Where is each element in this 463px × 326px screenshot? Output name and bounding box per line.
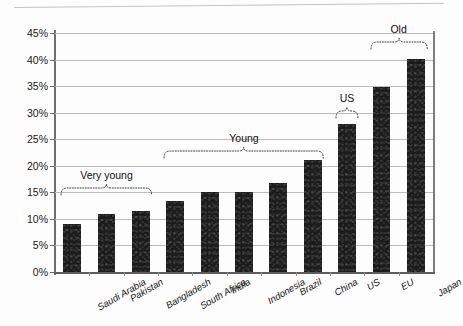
bar <box>98 214 116 272</box>
x-axis-category-label: China <box>332 276 359 298</box>
x-axis-tick <box>227 272 228 276</box>
plot-area: 0%5%10%15%20%25%30%35%40%45%Very youngYo… <box>55 33 433 272</box>
bar <box>166 201 184 272</box>
plot-right-border <box>433 31 435 273</box>
y-axis-label: 40% <box>27 54 48 65</box>
y-axis-label: 5% <box>33 240 48 251</box>
y-axis-tick <box>50 113 55 114</box>
y-axis-label: 15% <box>27 187 48 198</box>
x-axis-tick <box>192 272 193 276</box>
y-axis-label: 25% <box>27 134 48 145</box>
y-axis-label: 0% <box>33 267 48 278</box>
y-axis-label: 10% <box>27 214 48 225</box>
bar <box>63 224 81 272</box>
bar <box>132 211 150 272</box>
annotation-brace <box>60 184 153 196</box>
x-axis-tick <box>89 272 90 276</box>
y-axis-tick <box>50 192 55 193</box>
annotation-label: Young <box>229 132 258 144</box>
x-axis-tick <box>364 272 365 276</box>
annotation-brace <box>163 147 324 159</box>
bar <box>338 124 356 272</box>
gridline <box>55 60 433 61</box>
bar <box>304 160 322 272</box>
x-axis-tick <box>296 272 297 276</box>
gridline <box>55 33 433 34</box>
x-axis-tick <box>399 272 400 276</box>
bar <box>201 192 219 272</box>
y-axis-tick <box>50 272 55 273</box>
bar <box>235 192 253 272</box>
annotation-label: US <box>340 92 355 104</box>
annotation-label: Very young <box>80 169 133 181</box>
bar <box>373 87 391 272</box>
y-axis-tick <box>50 219 55 220</box>
y-axis-tick <box>50 166 55 167</box>
y-axis-label: 35% <box>27 81 48 92</box>
annotation-label: Old <box>390 23 406 35</box>
x-axis-line <box>54 272 435 274</box>
x-axis-category-label: Japan <box>435 276 463 298</box>
y-axis-tick <box>50 60 55 61</box>
bar <box>269 183 287 272</box>
y-axis-tick <box>50 86 55 87</box>
y-axis-tick <box>50 33 55 34</box>
x-axis-category-label: US <box>365 276 382 292</box>
y-axis-tick <box>50 139 55 140</box>
x-axis-tick <box>261 272 262 276</box>
y-axis-tick <box>50 245 55 246</box>
y-axis-label: 45% <box>27 28 48 39</box>
x-axis-category-label: EU <box>399 276 416 292</box>
bar <box>407 59 425 273</box>
scan-artifact-line <box>14 3 444 8</box>
x-axis-category-label: India <box>228 276 251 296</box>
x-axis-tick <box>124 272 125 276</box>
annotation-brace <box>370 38 428 50</box>
annotation-brace <box>335 107 359 119</box>
y-axis-label: 30% <box>27 107 48 118</box>
y-axis-label: 20% <box>27 161 48 172</box>
x-axis-tick <box>330 272 331 276</box>
